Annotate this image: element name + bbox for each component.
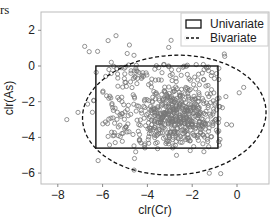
y-axis: 20−2−4−6 <box>21 23 41 180</box>
data-point <box>225 122 229 126</box>
data-point <box>188 87 192 91</box>
data-point <box>160 93 164 97</box>
data-point <box>115 110 119 114</box>
data-point <box>169 38 173 42</box>
data-point <box>242 85 246 89</box>
data-point <box>107 143 111 147</box>
y-tick-label: −2 <box>21 95 35 109</box>
data-point <box>116 84 120 88</box>
data-point <box>224 95 228 99</box>
data-point <box>132 53 136 57</box>
data-point <box>209 88 213 92</box>
data-point <box>219 172 223 176</box>
data-point <box>114 34 118 38</box>
data-point <box>127 43 131 47</box>
data-point <box>237 91 241 95</box>
data-point <box>167 85 171 89</box>
data-point <box>212 107 216 111</box>
data-point <box>194 87 198 91</box>
data-point <box>207 171 211 175</box>
data-point <box>128 80 132 84</box>
data-point <box>131 132 135 136</box>
data-point <box>137 123 141 127</box>
x-axis: −8−6−4−20 <box>51 184 241 202</box>
data-point <box>113 121 117 125</box>
data-point <box>185 72 189 76</box>
data-point <box>83 44 87 48</box>
data-point <box>65 118 69 122</box>
x-tick-label: 0 <box>234 188 241 202</box>
data-point <box>179 73 183 77</box>
data-point <box>163 85 167 89</box>
data-point <box>132 156 136 160</box>
data-point <box>76 110 80 114</box>
data-point <box>122 103 126 107</box>
data-point <box>230 123 234 127</box>
data-point <box>116 76 120 80</box>
data-point <box>116 72 120 76</box>
data-point <box>197 83 201 87</box>
data-point <box>135 82 139 86</box>
data-point <box>113 141 117 145</box>
data-point <box>96 159 100 163</box>
data-point <box>179 87 183 91</box>
data-point <box>143 105 147 109</box>
y-tick-label: 0 <box>28 59 35 73</box>
data-point <box>196 72 200 76</box>
x-axis-label: clr(Cr) <box>138 203 171 217</box>
scatter-chart: −8−6−4−20 20−2−4−6 clr(Cr) clr(As) Univa… <box>0 0 279 221</box>
x-tick-label: −8 <box>51 188 65 202</box>
data-point <box>174 153 178 157</box>
data-point <box>167 45 171 49</box>
data-point <box>170 79 174 83</box>
data-point <box>177 68 181 72</box>
x-tick-label: −2 <box>185 188 199 202</box>
data-point <box>109 60 113 64</box>
y-axis-label: clr(As) <box>2 81 16 116</box>
x-tick-label: −6 <box>96 188 110 202</box>
y-tick-label: −4 <box>21 130 35 144</box>
data-point <box>134 150 138 154</box>
legend: Univariate Bivariate <box>181 13 268 46</box>
data-point <box>192 83 196 87</box>
data-point <box>188 149 192 153</box>
data-point <box>120 95 124 99</box>
data-point <box>134 109 138 113</box>
data-point <box>169 68 173 72</box>
x-tick-label: −4 <box>141 188 155 202</box>
data-point <box>115 117 119 121</box>
data-point <box>196 78 200 82</box>
data-point <box>132 144 136 148</box>
data-point <box>120 139 124 143</box>
data-point <box>130 86 134 90</box>
legend-univariate-label: Univariate <box>210 17 264 31</box>
data-point <box>96 49 100 53</box>
data-point <box>126 103 130 107</box>
data-point <box>110 130 114 134</box>
data-point <box>123 72 127 76</box>
data-point <box>106 134 110 138</box>
y-tick-label: −6 <box>21 166 35 180</box>
data-point <box>125 51 129 55</box>
data-point <box>139 108 143 112</box>
data-point <box>122 117 126 121</box>
data-point <box>86 102 90 106</box>
y-tick-label: 2 <box>28 23 35 37</box>
legend-bivariate-label: Bivariate <box>210 31 257 45</box>
data-point <box>160 71 164 75</box>
data-point <box>107 67 111 71</box>
data-point <box>202 150 206 154</box>
data-point <box>202 101 206 105</box>
data-point <box>87 50 91 54</box>
data-point <box>206 118 210 122</box>
data-point <box>209 74 213 78</box>
data-point <box>106 39 110 43</box>
data-point <box>90 110 94 114</box>
data-point <box>142 104 146 108</box>
data-point <box>201 142 205 146</box>
